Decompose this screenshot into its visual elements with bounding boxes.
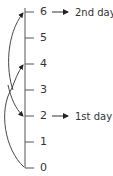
tick-label-6: 6 <box>40 6 47 17</box>
tick-label-2: 2 <box>40 110 47 121</box>
tick-label-1: 1 <box>40 136 47 147</box>
tick-label-4: 4 <box>40 58 47 69</box>
tick-label-0: 0 <box>40 162 47 173</box>
tick-label-3: 3 <box>40 84 47 95</box>
tick-label-5: 5 <box>40 32 47 43</box>
axis-ticks <box>25 12 34 168</box>
annotation-2nd-day: 2nd day <box>75 7 113 18</box>
annotation-1st-day: 1st day <box>75 111 112 122</box>
move-arrow-0-to-4 <box>5 65 24 167</box>
number-line-diagram <box>0 0 113 176</box>
move-arrow-4-to-2 <box>8 85 23 116</box>
